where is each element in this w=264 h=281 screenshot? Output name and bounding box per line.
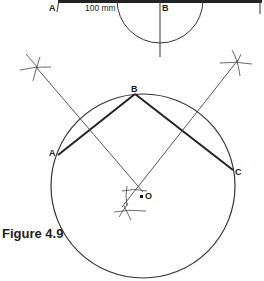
label-a-top: A <box>49 3 56 13</box>
center-point <box>140 195 143 198</box>
label-b: B <box>131 84 138 94</box>
chord-ab <box>58 94 135 155</box>
label-c: C <box>235 167 242 177</box>
figure-caption: Figure 4.9 <box>2 226 63 241</box>
chord-bc <box>135 94 233 170</box>
main-construction: B A C O <box>20 50 252 278</box>
label-o: O <box>145 191 152 201</box>
arc-marks-top-left <box>20 54 51 81</box>
bisector-bc <box>122 60 238 207</box>
main-circle <box>51 94 235 278</box>
top-construction: A B 100 mm <box>49 0 262 57</box>
label-b-top: B <box>162 3 169 13</box>
geometry-figure: A B 100 mm <box>0 0 264 281</box>
label-a: A <box>49 148 56 158</box>
measurement-label: 100 mm <box>85 3 116 13</box>
